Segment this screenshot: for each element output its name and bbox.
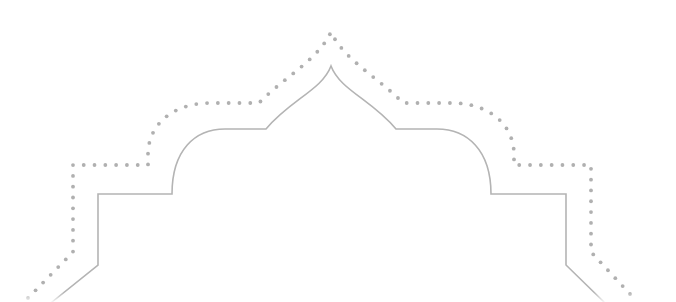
outline-dot bbox=[64, 257, 68, 261]
outline-dot bbox=[56, 265, 60, 269]
outline-dot bbox=[71, 206, 75, 210]
outline-dot bbox=[606, 268, 610, 272]
outline-dot bbox=[589, 221, 593, 225]
outline-dot bbox=[528, 163, 532, 167]
outline-dot bbox=[322, 42, 326, 46]
outline-dot bbox=[82, 163, 86, 167]
outline-dot bbox=[49, 273, 53, 277]
outline-dot bbox=[315, 50, 319, 54]
outline-dot bbox=[509, 136, 513, 140]
outline-dot bbox=[561, 163, 565, 167]
outline-dot bbox=[71, 163, 75, 167]
outline-dot bbox=[469, 103, 473, 107]
outline-dot bbox=[291, 72, 295, 76]
outline-dot bbox=[34, 288, 38, 292]
outline-dot bbox=[308, 57, 312, 61]
outline-dot bbox=[174, 109, 178, 113]
outline-dot bbox=[275, 85, 279, 89]
outline-dot bbox=[114, 163, 118, 167]
outline-dot bbox=[26, 296, 30, 300]
outline-dot bbox=[512, 158, 516, 162]
outline-dot bbox=[380, 82, 384, 86]
inner-solid-arch-outline bbox=[52, 66, 604, 302]
outline-dot bbox=[628, 292, 632, 296]
outline-dot bbox=[371, 75, 375, 79]
outline-dot bbox=[216, 101, 220, 105]
outer-dotted-arch-outline bbox=[26, 32, 632, 300]
outline-dot bbox=[41, 281, 45, 285]
outline-dot bbox=[426, 101, 430, 105]
outline-dot bbox=[505, 127, 509, 131]
outline-dot bbox=[165, 114, 169, 118]
outline-dot bbox=[589, 189, 593, 193]
outline-dot bbox=[71, 217, 75, 221]
outline-dot bbox=[512, 147, 516, 151]
outline-dot bbox=[405, 101, 409, 105]
outline-dot bbox=[151, 131, 155, 135]
outline-dot bbox=[550, 163, 554, 167]
outline-dot bbox=[589, 167, 593, 171]
outline-dot bbox=[388, 89, 392, 93]
outline-dot bbox=[589, 178, 593, 182]
outline-dot bbox=[347, 54, 351, 58]
outline-dot bbox=[489, 112, 493, 116]
outline-dot bbox=[283, 78, 287, 82]
ornament-canvas bbox=[0, 0, 676, 302]
outline-dot bbox=[71, 228, 75, 232]
outline-dot bbox=[248, 101, 252, 105]
outline-dot bbox=[539, 163, 543, 167]
outline-dot bbox=[589, 232, 593, 236]
outline-dot bbox=[136, 163, 140, 167]
outline-dot bbox=[621, 284, 625, 288]
outline-dot bbox=[339, 46, 343, 50]
outline-dot bbox=[498, 118, 502, 122]
outline-dot bbox=[599, 260, 603, 264]
outline-dot bbox=[517, 163, 521, 167]
outline-dot bbox=[93, 163, 97, 167]
outline-dot bbox=[71, 239, 75, 243]
outline-dot bbox=[259, 100, 263, 104]
arch-ornament-graphic bbox=[0, 0, 676, 302]
outline-dot bbox=[613, 276, 617, 280]
outline-dot bbox=[459, 102, 463, 106]
outline-dot bbox=[194, 102, 198, 106]
outline-dot bbox=[71, 250, 75, 254]
outline-dot bbox=[147, 141, 151, 145]
outline-dot bbox=[300, 65, 304, 69]
outline-dot bbox=[437, 101, 441, 105]
outline-dot bbox=[227, 101, 231, 105]
outline-dot bbox=[591, 253, 595, 257]
outline-dot bbox=[333, 37, 337, 41]
outline-dot bbox=[266, 92, 270, 96]
outline-dot bbox=[416, 101, 420, 105]
outline-dot bbox=[146, 163, 150, 167]
outline-dot bbox=[589, 243, 593, 247]
outline-dot bbox=[589, 199, 593, 203]
outline-dot bbox=[103, 163, 107, 167]
outline-dot bbox=[589, 210, 593, 214]
outline-dot bbox=[71, 196, 75, 200]
outline-dot bbox=[71, 185, 75, 189]
outline-dot bbox=[582, 163, 586, 167]
outline-dot bbox=[480, 107, 484, 111]
outline-dot bbox=[448, 101, 452, 105]
outline-dot bbox=[205, 101, 209, 105]
outline-dot bbox=[238, 101, 242, 105]
outline-dot bbox=[71, 174, 75, 178]
outline-dot bbox=[125, 163, 129, 167]
outline-dot bbox=[157, 122, 161, 126]
outline-dot bbox=[146, 152, 150, 156]
outline-dot bbox=[184, 105, 188, 109]
outline-dot bbox=[571, 163, 575, 167]
outline-dot bbox=[328, 32, 332, 36]
outline-dot bbox=[363, 68, 367, 72]
outline-dot bbox=[355, 61, 359, 65]
outline-dot bbox=[396, 96, 400, 100]
